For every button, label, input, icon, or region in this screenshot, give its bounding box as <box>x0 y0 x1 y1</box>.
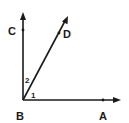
point-d-dot <box>58 32 61 35</box>
angle-2-label: 2 <box>25 76 30 85</box>
arrowhead-d-icon <box>62 16 68 24</box>
label-c: C <box>8 25 16 37</box>
label-a: A <box>99 110 107 122</box>
ray-bc <box>20 12 26 100</box>
angle-1-label: 1 <box>31 91 36 100</box>
arrowhead-c-icon <box>20 12 26 20</box>
point-c-dot <box>22 29 25 32</box>
label-d: D <box>63 28 71 40</box>
point-a-dot <box>102 99 105 102</box>
arrowhead-a-icon <box>113 97 121 103</box>
angle-diagram: C D B A 2 1 <box>0 0 129 123</box>
ray-bd <box>23 16 68 100</box>
ray-ba <box>23 97 121 103</box>
label-b: B <box>16 110 24 122</box>
